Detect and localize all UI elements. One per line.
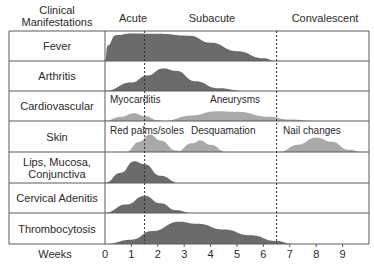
tick-label-3: 3 (178, 248, 190, 260)
phase-subacute-label: Subacute (182, 12, 242, 24)
row-label-cervical-adenitis: Cervical Adenitis (9, 183, 105, 213)
row-label-lips-line1: Lips, Mucosa, (23, 156, 91, 168)
tick-label-5: 5 (231, 248, 243, 260)
annotation-desquamation: Desquamation (191, 125, 255, 136)
column-title-line2: Manifestations (9, 16, 105, 28)
tick-label-1: 1 (125, 248, 137, 260)
row-label-arthritis: Arthritis (9, 61, 105, 91)
column-title: Clinical Manifestations (9, 4, 105, 28)
row-label-fever: Fever (9, 31, 105, 61)
row-label-lips-line2: Conjunctiva (28, 168, 85, 180)
curve-skin-nail-changes (279, 138, 363, 153)
tick-label-9: 9 (337, 248, 349, 260)
curve-thrombocytosis (105, 222, 292, 244)
annotation-red-palms-soles: Red palms/soles (110, 125, 184, 136)
x-axis-label: Weeks (30, 248, 80, 260)
curve-fever (105, 34, 277, 61)
tick-label-0: 0 (99, 248, 111, 260)
row-label-lips-mucosa-conjunctiva: Lips, Mucosa, Conjunctiva (9, 152, 105, 183)
tick-label-7: 7 (284, 248, 296, 260)
row-label-thrombocytosis: Thrombocytosis (9, 213, 105, 244)
tick-label-2: 2 (152, 248, 164, 260)
annotation-nail-changes: Nail changes (283, 125, 341, 136)
tick-label-6: 6 (257, 248, 269, 260)
manifestation-curves (105, 34, 364, 244)
curve-cervical-adenitis (105, 196, 192, 213)
row-label-cardiovascular: Cardiovascular (9, 91, 105, 121)
phase-convalescent-label: Convalescent (285, 12, 365, 24)
curve-cardiovascular-myocarditis (105, 113, 166, 121)
tick-label-8: 8 (310, 248, 322, 260)
curve-cardiovascular-aneurysms (163, 111, 316, 121)
row-label-skin: Skin (9, 121, 105, 152)
column-title-line1: Clinical (9, 4, 105, 16)
curve-skin-red-palms-soles (126, 135, 184, 152)
curve-arthritis (105, 69, 245, 91)
annotation-aneurysms: Aneurysms (210, 94, 260, 105)
annotation-myocarditis: Myocarditis (110, 94, 161, 105)
tick-label-4: 4 (205, 248, 217, 260)
phase-acute-label: Acute (113, 12, 153, 24)
curve-skin-desquamation (176, 140, 226, 152)
curve-lips-mucosa-conjunctiva (105, 161, 179, 183)
